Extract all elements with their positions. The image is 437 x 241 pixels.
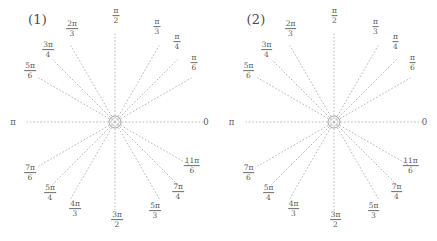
fraction-denominator: 4 (263, 194, 275, 202)
fraction-denominator: 3 (368, 212, 380, 220)
angle-label-210: 7π6 (243, 164, 255, 182)
fraction-numerator: 3π (261, 41, 273, 50)
angle-label-150: 5π6 (24, 62, 36, 80)
fraction-denominator: 3 (154, 28, 161, 36)
fraction-denominator: 2 (330, 221, 342, 229)
fraction: 5π6 (243, 62, 255, 80)
fraction-denominator: 4 (172, 193, 184, 201)
fraction: 3π2 (330, 211, 342, 229)
fraction-denominator: 3 (66, 30, 78, 38)
fraction-numerator: 5π (44, 184, 56, 193)
fraction-denominator: 4 (44, 194, 56, 202)
fraction-numerator: 5π (243, 62, 255, 71)
angle-label-135: 3π4 (42, 41, 54, 59)
angle-label-270: 3π2 (111, 211, 123, 229)
fraction-denominator: 4 (174, 43, 181, 51)
fraction-denominator: 6 (184, 167, 200, 175)
fraction: 2π3 (285, 20, 297, 38)
fraction-denominator: 6 (24, 72, 36, 80)
fraction: π4 (392, 33, 399, 51)
fraction: 5π4 (44, 184, 56, 202)
fraction-numerator: 5π (24, 62, 36, 71)
panel-tag: (1) (28, 12, 47, 27)
fraction-denominator: 3 (285, 30, 297, 38)
fraction: 5π6 (24, 62, 36, 80)
angle-label-60: π3 (154, 18, 161, 36)
angle-label-45: π4 (174, 33, 181, 51)
angle-label-330: 11π6 (184, 157, 200, 175)
panel-1: (1)π0π6π4π3π22π33π45π67π65π44π33π25π37π4… (0, 0, 219, 241)
fraction: π4 (174, 33, 181, 51)
spoke-45 (334, 60, 396, 122)
fraction: 7π4 (172, 183, 184, 201)
fraction-denominator: 6 (243, 72, 255, 80)
angle-label-300: 5π3 (149, 202, 161, 220)
fraction: 3π4 (42, 41, 54, 59)
fraction-numerator: 7π (391, 183, 403, 192)
fraction-denominator: 6 (24, 174, 36, 182)
angle-label-315: 7π4 (391, 183, 403, 201)
angle-label-150: 5π6 (243, 62, 255, 80)
fraction-denominator: 3 (69, 210, 81, 218)
fraction-denominator: 6 (243, 174, 255, 182)
fraction-numerator: 3π (111, 211, 123, 220)
fraction-numerator: 2π (285, 20, 297, 29)
fraction-numerator: π (113, 7, 120, 16)
fraction-numerator: π (372, 18, 379, 27)
fraction: 7π4 (391, 183, 403, 201)
angle-label-300: 5π3 (368, 202, 380, 220)
fraction-numerator: π (392, 33, 399, 42)
fraction-numerator: 4π (69, 200, 81, 209)
angle-label-225: 5π4 (263, 184, 275, 202)
axis-label-pi: π (229, 117, 235, 127)
fraction-denominator: 4 (42, 51, 54, 59)
angle-label-120: 2π3 (285, 20, 297, 38)
fraction: 11π6 (184, 157, 200, 175)
spoke-315 (334, 122, 396, 184)
angle-label-120: 2π3 (66, 20, 78, 38)
fraction-numerator: 3π (42, 41, 54, 50)
spoke-lines (0, 0, 219, 241)
fraction: 11π6 (402, 157, 418, 175)
axis-label-zero: 0 (422, 117, 427, 127)
fraction-numerator: 2π (66, 20, 78, 29)
fraction-denominator: 4 (261, 51, 273, 59)
fraction-denominator: 6 (402, 167, 418, 175)
fraction-numerator: π (331, 7, 338, 16)
spoke-225 (53, 122, 115, 184)
fraction: 3π4 (261, 41, 273, 59)
spoke-225 (271, 122, 333, 184)
fraction: π3 (154, 18, 161, 36)
fraction-denominator: 4 (392, 43, 399, 51)
angle-label-330: 11π6 (402, 157, 418, 175)
angle-label-30: π6 (191, 54, 198, 72)
fraction-denominator: 3 (288, 210, 300, 218)
fraction-denominator: 4 (391, 193, 403, 201)
spoke-45 (115, 60, 177, 122)
fraction-denominator: 2 (331, 17, 338, 25)
fraction: 7π6 (24, 164, 36, 182)
fraction-numerator: 11π (402, 157, 418, 166)
fraction: π2 (113, 7, 120, 25)
fraction-numerator: π (174, 33, 181, 42)
fraction-numerator: 5π (149, 202, 161, 211)
fraction: 4π3 (288, 200, 300, 218)
angle-label-90: π2 (113, 7, 120, 25)
spoke-lines (219, 0, 437, 241)
fraction: π2 (331, 7, 338, 25)
angle-label-30: π6 (409, 54, 416, 72)
fraction-numerator: 7π (243, 164, 255, 173)
fraction-numerator: π (409, 54, 416, 63)
angle-label-60: π3 (372, 18, 379, 36)
fraction: 5π3 (149, 202, 161, 220)
fraction: 3π2 (111, 211, 123, 229)
angle-label-210: 7π6 (24, 164, 36, 182)
fraction: 5π3 (368, 202, 380, 220)
axis-label-zero: 0 (203, 117, 208, 127)
angle-label-225: 5π4 (44, 184, 56, 202)
fraction-numerator: 7π (24, 164, 36, 173)
angle-label-240: 4π3 (69, 200, 81, 218)
spoke-135 (271, 60, 333, 122)
fraction: 7π6 (243, 164, 255, 182)
angle-label-135: 3π4 (261, 41, 273, 59)
